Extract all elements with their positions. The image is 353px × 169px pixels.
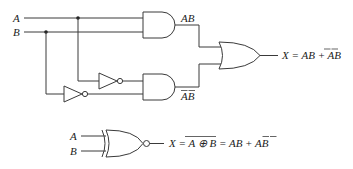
- input-b-label: B: [13, 26, 20, 38]
- and-top-output-label: AB: [180, 12, 195, 24]
- inverter-a-bubble-icon: [117, 78, 122, 83]
- wire-b-branch: [46, 32, 64, 94]
- and-gate-top: [143, 12, 175, 38]
- or-output-expression: X = AB + AB: [281, 49, 341, 61]
- xnor-input-a-label: A: [69, 130, 77, 142]
- and-gate-bottom: [143, 74, 175, 100]
- input-a-label: A: [12, 12, 20, 24]
- inverter-b: [64, 86, 82, 102]
- wire-and-top-out: [175, 25, 222, 47]
- inverter-b-bubble-icon: [82, 91, 87, 96]
- logic-diagram: A B AB AB X = AB + AB A B X = A ⊕ B = AB…: [0, 0, 353, 169]
- xnor-gate: [106, 130, 143, 157]
- xnor-output-expression: X = A ⊕ B = AB + AB: [168, 137, 269, 149]
- xnor-input-b-label: B: [70, 145, 77, 157]
- xnor-extra-arc: [102, 130, 105, 157]
- xnor-bubble-icon: [144, 141, 150, 147]
- wire-a-branch: [78, 18, 99, 81]
- or-gate: [219, 42, 260, 69]
- wire-and-bottom-out: [175, 64, 222, 87]
- and-bottom-output-label: AB: [180, 90, 195, 102]
- inverter-a: [99, 73, 117, 89]
